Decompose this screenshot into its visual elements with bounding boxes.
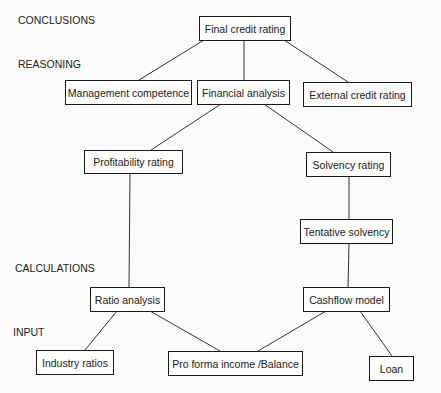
level-label-calculations: CALCULATIONS	[15, 262, 95, 274]
edge-final-management	[139, 40, 204, 80]
node-external-credit-rating: External credit rating	[303, 82, 412, 107]
node-loan: Loan	[369, 356, 414, 381]
edge-tentative-cashflow	[348, 243, 349, 287]
node-tentative-solvency: Tentative solvency	[300, 219, 393, 244]
edge-cashflow-proforma	[258, 311, 326, 351]
node-pro-forma-income-balance: Pro forma income /Balance	[168, 351, 303, 376]
edge-profitability-ratio	[129, 173, 130, 287]
edge-ratio-industry	[85, 311, 117, 350]
node-cashflow-model: Cashflow model	[303, 287, 390, 312]
edge-financial-profitability	[151, 104, 221, 150]
node-management-competence: Management competence	[65, 80, 192, 105]
edge-cashflow-loan	[360, 311, 392, 356]
edge-ratio-proforma	[150, 311, 220, 351]
edge-final-external	[284, 40, 348, 82]
node-profitability-rating: Profitability rating	[84, 150, 183, 174]
node-solvency-rating: Solvency rating	[306, 152, 391, 177]
node-final-credit-rating: Final credit rating	[199, 16, 291, 41]
node-financial-analysis: Financial analysis	[197, 80, 290, 105]
node-industry-ratios: Industry ratios	[36, 350, 114, 375]
level-label-input: INPUT	[13, 326, 45, 338]
edge-financial-solvency	[264, 104, 333, 152]
level-label-conclusions: CONCLUSIONS	[18, 14, 95, 26]
level-label-reasoning: REASONING	[18, 58, 81, 70]
node-ratio-analysis: Ratio analysis	[90, 287, 165, 312]
